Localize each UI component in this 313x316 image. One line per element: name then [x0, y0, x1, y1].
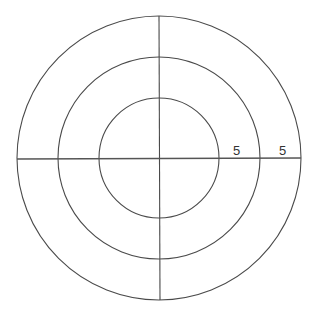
ring-label-outer: 5 [279, 143, 286, 158]
ring-label-inner: 5 [233, 143, 240, 158]
concentric-circle-diagram: 5 5 [0, 0, 313, 316]
horizontal-axis [17, 158, 301, 159]
